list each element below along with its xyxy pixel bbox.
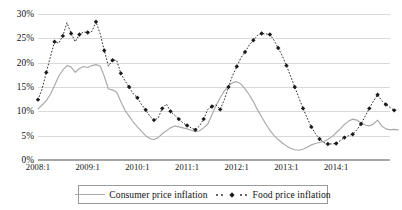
- y-tick-label-10%: 10%: [17, 106, 34, 116]
- x-tick-label-2010-1: 2010:1: [125, 162, 149, 172]
- data-point-marker: [94, 20, 98, 24]
- data-point-marker: [52, 40, 56, 44]
- chart-legend: Consumer price inflation Food price infl…: [78, 185, 328, 204]
- data-point-marker: [160, 106, 164, 110]
- legend-label-food: Food price inflation: [253, 189, 331, 200]
- legend-item-food-price-inflation: Food price inflation: [215, 189, 331, 200]
- data-point-marker: [367, 106, 371, 110]
- solid-line-swatch-icon: [75, 194, 105, 195]
- data-point-marker: [152, 118, 156, 122]
- y-tick-label-5%: 5%: [21, 131, 34, 141]
- x-tick-label-2013-1: 2013:1: [274, 162, 298, 172]
- chart-container: 0%5%10%15%20%25%30% 2008:12009:12010:120…: [0, 0, 402, 210]
- data-point-marker: [110, 58, 114, 62]
- dotted-diamond-swatch-icon: [215, 191, 249, 199]
- y-tick-label-25%: 25%: [17, 33, 34, 43]
- legend-item-consumer-price-inflation: Consumer price inflation: [75, 189, 207, 200]
- plot-area: [38, 14, 390, 160]
- x-tick-label-2009-1: 2009:1: [75, 162, 99, 172]
- data-point-marker: [61, 34, 65, 38]
- data-point-marker: [235, 64, 239, 68]
- data-point-marker: [102, 48, 106, 52]
- series-line-1: [38, 22, 398, 144]
- data-point-marker: [301, 106, 305, 110]
- x-tick-label-2012-1: 2012:1: [225, 162, 249, 172]
- data-point-marker: [44, 70, 48, 74]
- data-point-marker: [251, 38, 255, 42]
- data-point-marker: [326, 142, 330, 146]
- data-point-marker: [334, 141, 338, 145]
- x-tick-label-2008-1: 2008:1: [26, 162, 50, 172]
- data-point-marker: [119, 71, 123, 75]
- y-tick-label-20%: 20%: [17, 58, 34, 68]
- data-point-marker: [284, 63, 288, 67]
- legend-label-consumer: Consumer price inflation: [109, 189, 207, 200]
- data-point-marker: [309, 125, 313, 129]
- y-tick-label-15%: 15%: [17, 82, 34, 92]
- data-point-marker: [185, 123, 189, 127]
- data-point-marker: [259, 31, 263, 35]
- data-point-marker: [201, 117, 205, 121]
- data-point-marker: [85, 30, 89, 34]
- series-plot: [38, 14, 390, 160]
- data-point-marker: [69, 31, 73, 35]
- data-point-marker: [77, 32, 81, 36]
- y-tick-label-30%: 30%: [17, 9, 34, 19]
- data-point-marker: [268, 32, 272, 36]
- data-point-marker: [276, 46, 280, 50]
- data-point-marker: [293, 85, 297, 89]
- x-tick-label-2011-1: 2011:1: [175, 162, 199, 172]
- x-tick-label-2014-1: 2014:1: [324, 162, 348, 172]
- data-point-marker: [36, 97, 40, 101]
